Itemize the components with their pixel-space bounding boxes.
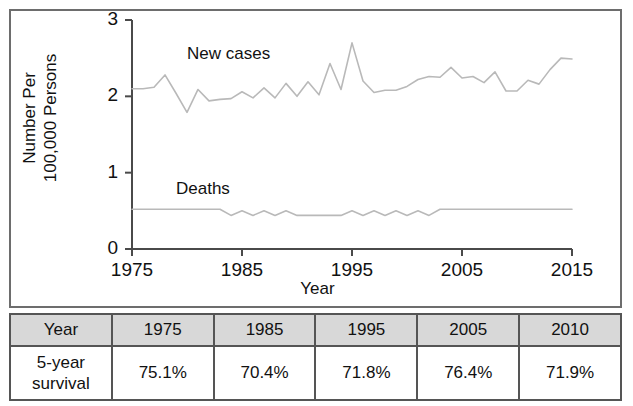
x-tick-label-2015: 2015 [537,259,607,281]
table-row-label-line2: survival [11,373,111,394]
table-cell-1995: 71.8% [315,346,417,400]
x-axis-label: Year [11,279,624,299]
y-tick-label-2: 2 [96,84,118,106]
series-label-new-cases: New cases [187,44,270,64]
y-axis-label-line2: 100,000 Persons [40,13,61,223]
figure-root: Number Per 100,000 Persons Year 0123 197… [0,0,633,406]
y-tick-label-3: 3 [96,8,118,30]
y-tick-label-0: 0 [96,237,118,259]
y-tick-label-1: 1 [96,161,118,183]
y-axis-label-line1: Number Per [19,13,40,223]
table-header-cell-2: 1985 [214,314,316,346]
table-cell-2005: 76.4% [417,346,519,400]
table-row-label: 5-year survival [10,346,112,400]
x-tick-label-1995: 1995 [317,259,387,281]
series-label-deaths: Deaths [176,179,230,199]
table-header-cell-0: Year [10,314,112,346]
table-header-cell-3: 1995 [315,314,417,346]
table-row-label-line1: 5-year [11,352,111,373]
table-row: 5-year survival 75.1% 70.4% 71.8% 76.4% … [10,346,621,400]
table-cell-1985: 70.4% [214,346,316,400]
x-tick-label-2005: 2005 [427,259,497,281]
table-cell-1975: 75.1% [112,346,214,400]
table-header-cell-5: 2010 [519,314,621,346]
x-tick-label-1975: 1975 [97,259,167,281]
survival-table: Year 1975 1985 1995 2005 2010 5-year sur… [9,313,622,401]
chart-panel: Number Per 100,000 Persons Year 0123 197… [9,9,622,308]
y-axis-label: Number Per 100,000 Persons [19,13,61,223]
series-line-deaths [132,209,572,215]
table-header-cell-1: 1975 [112,314,214,346]
table-header-row: Year 1975 1985 1995 2005 2010 [10,314,621,346]
table-header-cell-4: 2005 [417,314,519,346]
x-tick-label-1985: 1985 [207,259,277,281]
table-header: Year 1975 1985 1995 2005 2010 [10,314,621,346]
table-cell-2010: 71.9% [519,346,621,400]
table-body: 5-year survival 75.1% 70.4% 71.8% 76.4% … [10,346,621,400]
